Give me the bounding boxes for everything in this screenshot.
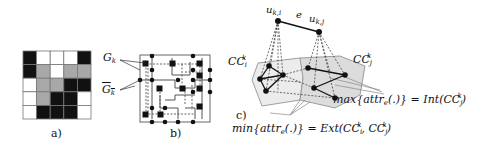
grid-cell <box>64 51 78 65</box>
min-formula: min{attre(.)} = Ext(CCik, CCjk) <box>232 122 391 136</box>
panel-a-grid <box>23 51 91 119</box>
grid-cell <box>64 105 78 119</box>
grid-cell <box>23 78 37 92</box>
node-u-kj-label: uk,j <box>309 14 324 26</box>
grid-cell <box>50 105 64 119</box>
panel-a-label: a) <box>51 128 62 139</box>
node-u-ki-label: uk,i <box>266 5 281 17</box>
grid-cell <box>77 92 91 106</box>
grid-cell <box>64 92 78 106</box>
grid-cell <box>50 65 64 79</box>
panel-b-graph <box>120 54 212 125</box>
grid-cell <box>77 65 91 79</box>
edge-e-label: e <box>296 10 302 20</box>
max-formula: max{attre(.)} = Int(CCjk) <box>333 93 466 107</box>
grid-cell <box>77 51 91 65</box>
grid-cell <box>37 92 51 106</box>
grid-cell <box>23 105 37 119</box>
component-cc-i-label: CCik <box>228 55 246 69</box>
grid-cell <box>77 105 91 119</box>
grid-cell <box>64 65 78 79</box>
grid-cell <box>23 51 37 65</box>
grid-cell <box>64 78 78 92</box>
grid-cell <box>23 65 37 79</box>
panel-b-label: b) <box>170 128 181 139</box>
grid-cell <box>37 105 51 119</box>
grid-cell <box>37 51 51 65</box>
grid-cell <box>50 51 64 65</box>
grid-cell <box>37 78 51 92</box>
component-cc-j-label: CCjk <box>353 53 371 67</box>
graph-gk-label: Gk <box>103 52 116 65</box>
graph-gk-complement-label: Gk <box>102 84 115 97</box>
grid-cell <box>50 78 64 92</box>
grid-cell <box>77 78 91 92</box>
grid-cell <box>37 65 51 79</box>
panel-c-label: c) <box>236 110 246 121</box>
grid-cell <box>23 92 37 106</box>
grid-cell <box>50 92 64 106</box>
